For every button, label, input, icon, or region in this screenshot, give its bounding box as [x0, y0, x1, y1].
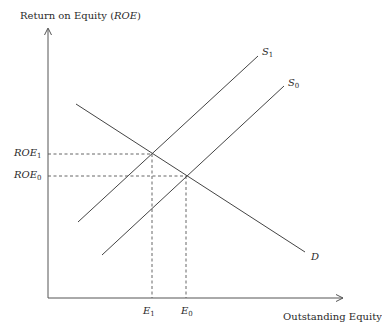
- y-axis-label-var: ROE: [114, 10, 137, 21]
- y-axis-label-text: Return on Equity (: [20, 10, 114, 21]
- label-s1-sub: 1: [269, 51, 273, 59]
- tick-roe0-name: ROE: [14, 169, 37, 180]
- tick-roe1-name: ROE: [14, 147, 37, 158]
- x-axis: [48, 295, 343, 302]
- tick-e0: E0: [181, 306, 193, 318]
- label-d: D: [311, 252, 319, 262]
- label-s0-sub: 0: [295, 82, 299, 90]
- tick-e1: E1: [143, 306, 155, 318]
- label-s0: S0: [288, 78, 299, 90]
- tick-roe0-sub: 0: [37, 174, 41, 182]
- label-s1: S1: [262, 47, 273, 59]
- label-s0-name: S: [288, 77, 295, 88]
- tick-roe0: ROE0: [14, 170, 42, 182]
- y-axis-label: Return on Equity (ROE): [20, 11, 141, 21]
- y-axis: [45, 28, 52, 298]
- x-axis-label: Outstanding Equity: [283, 312, 382, 322]
- tick-e1-sub: 1: [150, 310, 154, 318]
- label-s1-name: S: [262, 46, 269, 57]
- tick-roe1: ROE1: [14, 148, 42, 160]
- tick-roe1-sub: 1: [37, 152, 41, 160]
- y-axis-label-close: ): [137, 10, 141, 21]
- label-d-name: D: [311, 251, 319, 262]
- tick-e0-sub: 0: [188, 310, 192, 318]
- supply-curve-s0: [102, 86, 284, 255]
- supply-curve-s1: [78, 56, 258, 222]
- demand-curve-d: [76, 104, 305, 252]
